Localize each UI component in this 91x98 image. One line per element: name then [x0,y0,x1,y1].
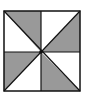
pinwheel-diagram [0,0,91,98]
center-point [39,50,43,54]
